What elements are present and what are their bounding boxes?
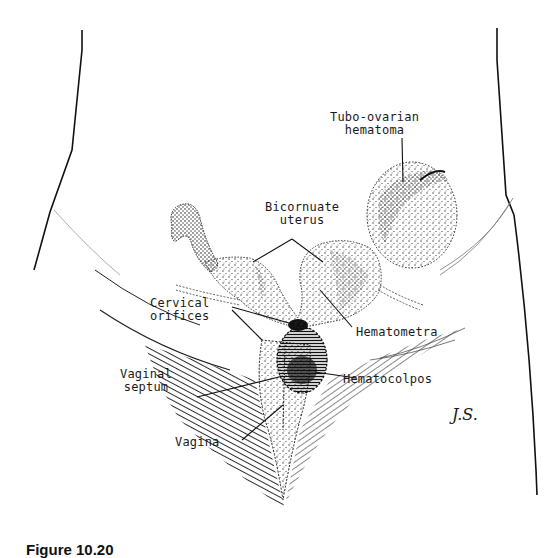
body-outline-left [34, 30, 120, 275]
label-tubo-ovarian-hematoma: Tubo-ovarian hematoma [330, 111, 419, 137]
right-ligament [378, 285, 423, 310]
label-hematocolpos: Hematocolpos [343, 373, 432, 386]
hematocolpos [277, 327, 327, 393]
figure-caption: Figure 10.20 [26, 541, 114, 558]
label-line-1: Hematometra [356, 326, 438, 339]
body-outline-right [440, 28, 537, 495]
label-bicornuate-uterus: Bicornuate uterus [265, 201, 339, 227]
label-vaginal-septum: Vaginal septum [120, 368, 172, 394]
tubo-ovarian-hematoma [367, 162, 457, 268]
artist-signature: J.S. [452, 405, 478, 424]
bicornuate-uterus [205, 241, 381, 328]
label-vagina: Vagina [175, 436, 220, 449]
label-cervical-orifices: Cervical orifices [150, 297, 209, 323]
label-line-1: Vagina [175, 436, 220, 449]
label-line-2: septum [120, 381, 172, 394]
label-line-2: uterus [265, 214, 339, 227]
label-line-1: Hematocolpos [343, 373, 432, 386]
label-line-2: hematoma [330, 124, 419, 137]
label-line-2: orifices [150, 310, 209, 323]
label-hematometra: Hematometra [356, 326, 438, 339]
